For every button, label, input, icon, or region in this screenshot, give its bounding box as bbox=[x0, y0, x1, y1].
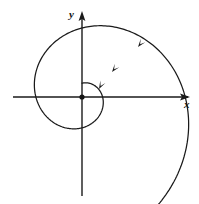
x-axis-label: x bbox=[184, 99, 190, 110]
axes-group bbox=[13, 11, 190, 196]
origin-dot bbox=[79, 94, 84, 99]
spiral-arrowheads-group bbox=[96, 39, 145, 91]
arrowhead-outer bbox=[136, 39, 146, 49]
figure-canvas bbox=[0, 0, 199, 204]
inward-logarithmic-spiral-path bbox=[0, 0, 199, 204]
y-axis-label: y bbox=[69, 9, 74, 20]
arrowhead-middle bbox=[110, 64, 120, 74]
spiral-phase-portrait-figure: y x bbox=[0, 0, 199, 204]
